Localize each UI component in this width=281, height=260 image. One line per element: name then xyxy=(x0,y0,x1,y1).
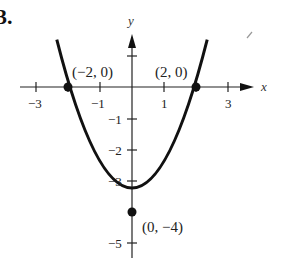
x-axis-label: x xyxy=(261,80,267,93)
y-tick-label: −2 xyxy=(108,144,122,157)
stray-mark xyxy=(247,32,252,38)
plot-area xyxy=(0,0,281,260)
x-tick-label: −1 xyxy=(91,97,105,110)
x-axis-arrow-icon xyxy=(240,83,254,91)
point-left-intercept xyxy=(64,83,73,92)
parabola-figure: 3. y xyxy=(0,0,281,260)
y-axis-arrow-icon xyxy=(128,34,136,48)
point-label-left: (−2, 0) xyxy=(72,65,113,80)
y-tick-label: −1 xyxy=(108,113,122,126)
x-tick-label: 3 xyxy=(225,97,232,110)
y-tick-label: −5 xyxy=(108,237,122,250)
point-label-vertex: (0, −4) xyxy=(142,220,183,235)
y-axis-label: y xyxy=(128,14,134,27)
point-vertex xyxy=(128,208,137,217)
x-tick-label: 1 xyxy=(161,97,168,110)
point-label-right: (2, 0) xyxy=(155,65,188,80)
y-tick-label: −3 xyxy=(108,175,122,188)
point-right-intercept xyxy=(192,83,201,92)
x-tick-label: −3 xyxy=(28,97,42,110)
